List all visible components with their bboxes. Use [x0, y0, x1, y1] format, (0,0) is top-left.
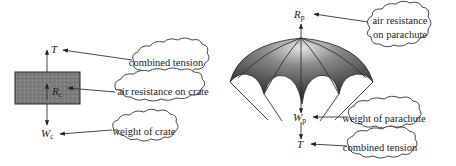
parachute-resistance-label-line2: on parachute [373, 29, 427, 40]
parachute-weight-label: weight of parachute [342, 113, 426, 124]
crate-tension-label: combined tension [129, 57, 204, 68]
crate-weight-label: weight of crate [113, 126, 176, 137]
parachute-resistance-leader [314, 14, 368, 22]
crate-weight-leader [60, 130, 112, 134]
free-body-diagram: T Rc Wc combined tension air resistance … [0, 0, 456, 166]
crate-tension-leader [63, 50, 132, 60]
parachute-tension-label: combined tension [343, 142, 418, 153]
crate-resistance-label: air resistance on crate [117, 86, 209, 97]
crate-weight-symbol: Wc [41, 127, 54, 141]
parachute-tension-symbol: T [297, 138, 304, 150]
crate-group: T Rc Wc combined tension air resistance … [15, 38, 209, 141]
crate-tension-symbol: T [51, 43, 58, 55]
suspension-line [264, 94, 282, 121]
parachute-canopy [230, 38, 373, 104]
parachute-weight-symbol: Wp [293, 111, 306, 125]
parachute-group: Rp Wp T air resistance on parachute weig… [230, 1, 431, 158]
parachute-resistance-symbol: Rp [293, 8, 305, 22]
parachute-resistance-label-line1: air resistance [372, 15, 427, 26]
parachute-tension-leader [311, 144, 347, 146]
